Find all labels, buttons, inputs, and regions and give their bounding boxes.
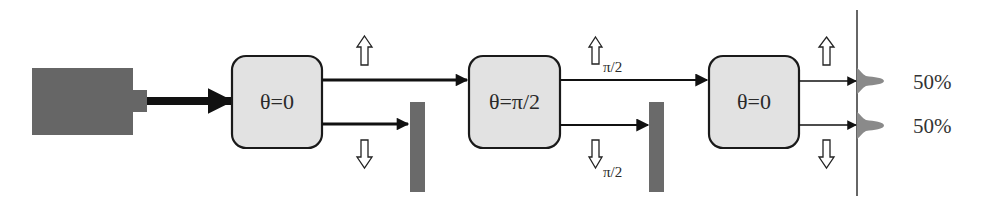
intensity-peak-upper — [857, 68, 884, 94]
beam-block-2 — [649, 102, 664, 192]
stage3-box: θ=0 — [709, 56, 799, 148]
interferometer-diagram: θ=0 θ=π/2 π/2 π/2 θ=0 — [0, 0, 986, 203]
stage2-down-subscript: π/2 — [603, 164, 622, 180]
up-arrow-icon — [819, 37, 834, 65]
stage3-label: θ=0 — [737, 89, 771, 114]
output-lower-percent: 50% — [913, 114, 952, 138]
intensity-peak-lower — [857, 112, 884, 139]
down-arrow-icon — [819, 140, 834, 168]
stage1-label: θ=0 — [260, 89, 294, 114]
laser-source — [32, 68, 147, 135]
stage1-box: θ=0 — [232, 56, 322, 148]
beam-block-1 — [410, 102, 425, 192]
stage2-up-subscript: π/2 — [603, 59, 622, 75]
down-arrow-icon — [589, 140, 602, 168]
stage2-label: θ=π/2 — [489, 89, 540, 114]
laser-body — [32, 68, 133, 135]
up-arrow-icon — [357, 36, 372, 65]
stage2-box: θ=π/2 — [469, 56, 560, 148]
laser-nozzle — [133, 90, 147, 112]
up-arrow-icon — [589, 37, 602, 64]
output-upper-percent: 50% — [913, 70, 952, 94]
down-arrow-icon — [357, 140, 372, 168]
